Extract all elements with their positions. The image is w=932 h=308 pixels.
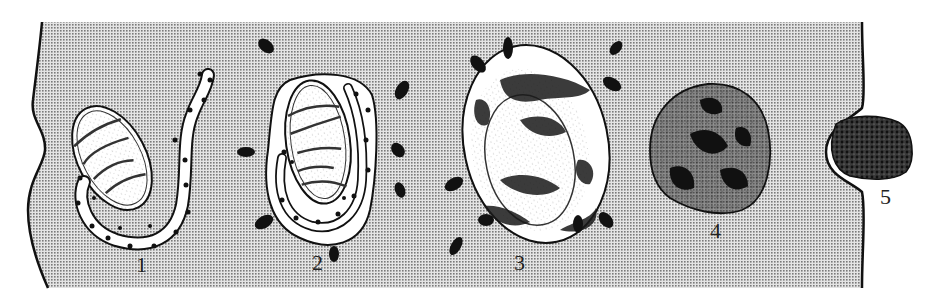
stage-4-label: 4 [710, 218, 721, 243]
autophagy-diagram: 1 2 [0, 0, 932, 308]
stage-1-label: 1 [136, 252, 147, 277]
stage-3-label: 3 [514, 250, 525, 275]
stage-2-label: 2 [312, 250, 323, 275]
stage-5-label: 5 [880, 184, 891, 209]
